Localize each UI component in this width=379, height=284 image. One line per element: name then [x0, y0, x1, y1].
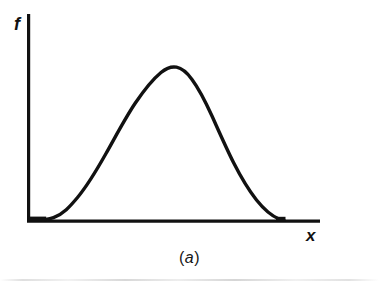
- plot-canvas: [0, 0, 379, 284]
- bell-curve-path: [29, 67, 284, 220]
- caption-close-paren: ): [194, 249, 200, 266]
- caption-letter: a: [185, 249, 194, 266]
- figure-caption: (a): [0, 249, 379, 267]
- x-axis-label: x: [306, 227, 315, 244]
- scan-artifact-line: [0, 279, 379, 281]
- y-axis-label: f: [14, 15, 20, 33]
- figure-container: f x (a): [0, 0, 379, 284]
